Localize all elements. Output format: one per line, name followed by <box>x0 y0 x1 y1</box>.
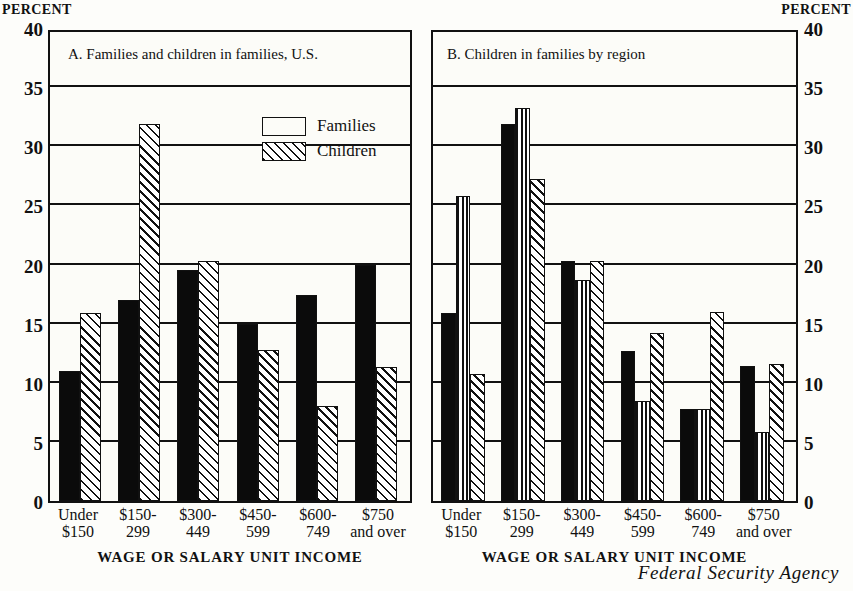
plot-area-a <box>50 32 410 501</box>
legend-panel-a: FamiliesChildren <box>262 116 377 166</box>
bar-west-5 <box>769 364 784 501</box>
legend-label: Children <box>317 141 377 161</box>
y-tick-label: 35 <box>3 79 43 98</box>
x-label-line2: and over <box>335 523 421 540</box>
bar-south-1 <box>515 108 530 501</box>
gridline <box>433 85 796 87</box>
bar-families-4 <box>296 295 317 501</box>
legend-label: Families <box>317 116 376 136</box>
bar-children-4 <box>317 406 338 501</box>
bar-west-1 <box>530 179 545 501</box>
y-tick-label: 15 <box>3 316 43 335</box>
gridline <box>433 263 796 265</box>
gridline <box>433 203 796 205</box>
bar-children-2 <box>198 261 219 501</box>
bar-west-2 <box>590 261 605 501</box>
legend-item: Families <box>262 116 377 136</box>
bar-families-2 <box>177 270 198 501</box>
x-category-label: $750and over <box>720 506 807 540</box>
y-tick-label: 10 <box>3 375 43 394</box>
gridline <box>433 322 796 324</box>
source-credit: Federal Security Agency <box>638 562 839 584</box>
y-tick-label: 20 <box>3 257 43 276</box>
y-tick-label: 25 <box>3 197 43 216</box>
x-label-line1: $750 <box>720 506 807 523</box>
y-tick-label: 30 <box>804 138 846 157</box>
y-tick-label: 0 <box>804 493 846 512</box>
y-tick-label: 20 <box>804 257 846 276</box>
plot-area-b <box>433 32 796 501</box>
bar-us-3 <box>621 351 636 501</box>
bar-west-4 <box>710 312 725 501</box>
gridline <box>433 144 796 146</box>
bar-south-5 <box>755 432 770 501</box>
panel-b-title: B. Children in families by region <box>447 46 645 63</box>
gridline <box>50 85 410 87</box>
bar-us-5 <box>740 366 755 501</box>
bar-west-0 <box>470 374 485 501</box>
legend-item: Children <box>262 141 377 161</box>
bar-families-1 <box>118 300 139 501</box>
bar-us-0 <box>441 313 456 501</box>
y-tick-label: 5 <box>804 434 846 453</box>
bar-families-3 <box>237 324 258 501</box>
bar-us-4 <box>680 409 695 501</box>
y-tick-label: 10 <box>804 375 846 394</box>
y-tick-label: 40 <box>804 20 846 39</box>
bar-south-3 <box>635 401 650 502</box>
figure-root: PERCENT PERCENT 4035302520151050 4035302… <box>0 0 853 591</box>
bar-children-5 <box>376 367 397 501</box>
bar-families-0 <box>59 371 80 501</box>
chart-panel-b: B. Children in families by region U.S.So… <box>431 30 798 503</box>
panel-a-title: A. Families and children in families, U.… <box>68 46 318 63</box>
chart-panel-a: A. Families and children in families, U.… <box>48 30 412 503</box>
legend-swatch-diagonal <box>262 142 306 161</box>
x-axis-labels-a: Under$150$150-299$300-449$450-599$600-74… <box>48 506 412 552</box>
x-axis-title-a: WAGE OR SALARY UNIT INCOME <box>48 549 412 566</box>
gridline <box>50 203 410 205</box>
x-label-line2: and over <box>720 523 807 540</box>
bar-children-0 <box>80 313 101 501</box>
y-tick-label: 35 <box>804 79 846 98</box>
x-category-label: $750and over <box>335 506 421 540</box>
y-tick-label: 40 <box>3 20 43 39</box>
x-label-line1: $750 <box>335 506 421 523</box>
percent-caption-right: PERCENT <box>781 2 851 18</box>
bar-south-4 <box>695 409 710 501</box>
bar-children-3 <box>258 350 279 501</box>
bar-children-1 <box>139 124 160 501</box>
bar-us-1 <box>501 124 516 501</box>
bar-us-2 <box>561 261 576 501</box>
bar-families-5 <box>355 265 376 502</box>
legend-swatch-solid <box>262 117 306 136</box>
y-tick-label: 30 <box>3 138 43 157</box>
y-tick-label: 15 <box>804 316 846 335</box>
percent-caption-left: PERCENT <box>2 2 72 18</box>
x-axis-labels-b: Under$150$150-299$300-449$450-599$600-74… <box>431 506 798 552</box>
bar-south-0 <box>456 196 471 501</box>
bar-west-3 <box>650 333 665 501</box>
bar-south-2 <box>575 280 590 501</box>
y-tick-label: 5 <box>3 434 43 453</box>
y-tick-label: 25 <box>804 197 846 216</box>
